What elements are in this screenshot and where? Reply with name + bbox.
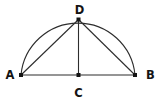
label-A: A xyxy=(6,68,15,82)
point-A xyxy=(19,73,23,77)
semicircle-diagram: ABCD xyxy=(0,0,161,106)
label-B: B xyxy=(146,68,155,82)
segment-AD xyxy=(21,20,79,76)
segment-DB xyxy=(79,20,136,76)
geometry-figure: ABCD xyxy=(0,0,161,106)
point-C xyxy=(77,73,81,77)
label-C: C xyxy=(74,86,82,100)
label-D: D xyxy=(75,3,85,17)
point-B xyxy=(133,73,137,77)
point-D xyxy=(77,18,81,22)
